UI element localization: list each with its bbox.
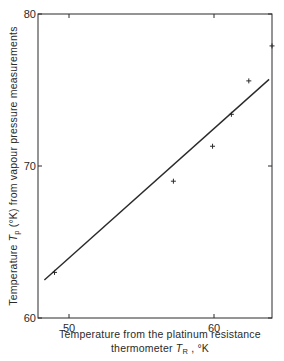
data-markers — [52, 43, 275, 274]
axis-tick-labels: 5060607080 — [24, 8, 220, 334]
x-axis-title-line1: Temperature from the platinum resistance — [59, 328, 261, 340]
y-tick-label: 80 — [24, 8, 36, 20]
y-tick-label: 70 — [24, 160, 36, 172]
plot-frame — [38, 14, 272, 318]
x-axis-title-line2: thermometer TR , °K — [111, 342, 209, 356]
data-point-plus-icon — [52, 270, 57, 275]
data-point-plus-icon — [171, 179, 176, 184]
chart: 5060607080 Temperature from the platinum… — [0, 0, 284, 361]
fit-line-path — [44, 79, 269, 280]
fit-line — [44, 79, 269, 280]
data-point-plus-icon — [229, 112, 234, 117]
y-axis-title: Temperature Tp (°K) from vapour pressure… — [7, 26, 21, 305]
data-point-plus-icon — [210, 144, 215, 149]
axis-ticks — [38, 14, 272, 318]
y-tick-label: 60 — [24, 312, 36, 324]
data-point-plus-icon — [270, 43, 275, 48]
data-point-plus-icon — [246, 78, 251, 83]
